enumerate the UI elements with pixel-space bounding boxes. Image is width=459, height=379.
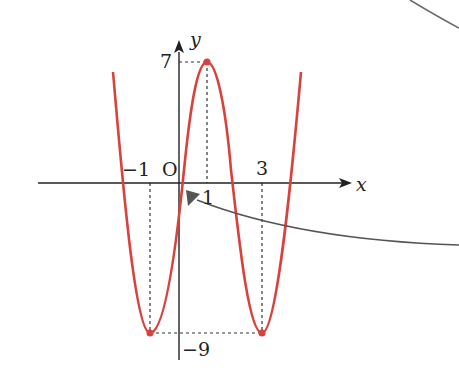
function-graph <box>0 0 459 379</box>
y-min-label: −9 <box>182 340 210 359</box>
x-tick-1: 1 <box>202 188 214 207</box>
axes <box>38 52 342 360</box>
annotation-curve-top <box>410 0 459 28</box>
y-max-label: 7 <box>160 52 172 71</box>
y-axis-arrow-icon <box>174 40 184 53</box>
x-axis-label: x <box>356 175 367 194</box>
max-point <box>204 59 211 66</box>
origin-label: O <box>162 160 178 179</box>
x-tick-3: 3 <box>256 159 268 178</box>
y-axis-label: y <box>190 30 201 49</box>
pointer-arrow-icon <box>186 190 200 206</box>
min-point-right <box>259 330 266 337</box>
x-tick-neg1: −1 <box>122 160 150 179</box>
min-point-left <box>147 330 154 337</box>
